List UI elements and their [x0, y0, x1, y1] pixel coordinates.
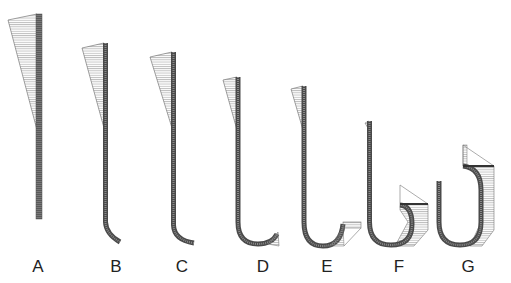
- hook-profiles-diagram: [0, 0, 511, 283]
- bar-d: [238, 77, 277, 244]
- profile-f: [365, 121, 428, 246]
- bar-c: [174, 52, 195, 243]
- load-triangle-a: [8, 14, 37, 130]
- profile-c: [150, 52, 194, 243]
- label-c: C: [172, 257, 192, 277]
- label-b: B: [106, 257, 126, 277]
- profile-d: [223, 77, 279, 246]
- bar-b: [106, 43, 121, 242]
- label-a: A: [28, 257, 48, 277]
- profile-a: [8, 14, 42, 219]
- label-f: F: [389, 257, 409, 277]
- bar-a: [36, 14, 42, 219]
- load-triangle-e: [291, 86, 303, 130]
- load-triangle-c: [150, 52, 172, 128]
- label-g: G: [458, 257, 478, 277]
- bar-g: [439, 166, 481, 245]
- profile-b: [82, 43, 120, 242]
- profile-g: [439, 145, 494, 246]
- load-triangle-b: [82, 43, 104, 128]
- label-e: E: [317, 257, 337, 277]
- figure: A B C D E F G: [0, 0, 511, 283]
- profile-e: [291, 86, 361, 246]
- bar-e: [304, 86, 343, 246]
- label-d: D: [253, 257, 273, 277]
- load-triangle-d: [223, 77, 237, 130]
